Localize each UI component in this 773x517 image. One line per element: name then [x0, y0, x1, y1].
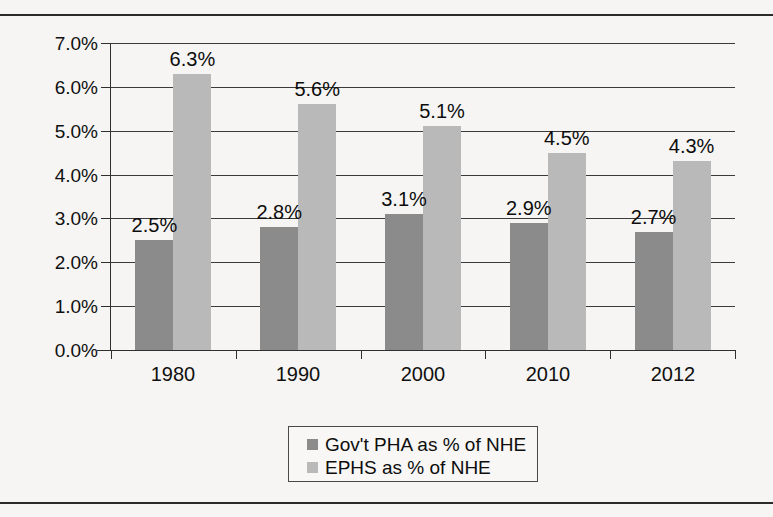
bar-series-1-2010 [548, 153, 586, 350]
x-axis-tick [485, 350, 486, 359]
x-axis-tick [236, 350, 237, 359]
y-axis-tick-label: 7.0% [12, 34, 98, 53]
data-label-series-1-1980: 6.3% [147, 49, 237, 69]
data-label-series-1-2010: 4.5% [522, 128, 612, 148]
y-axis-tick-label: 3.0% [12, 209, 98, 228]
bar-series-0-1980 [135, 240, 173, 350]
x-axis-tick [361, 350, 362, 359]
bar-series-1-1980 [173, 74, 211, 350]
y-axis-tick-label: 1.0% [12, 297, 98, 316]
bar-series-0-2000 [385, 214, 423, 350]
data-label-series-0-2012: 2.7% [609, 207, 699, 227]
data-label-series-0-1980: 2.5% [109, 215, 199, 235]
x-axis-tick-label-2000: 2000 [363, 363, 483, 386]
x-axis-tick [610, 350, 611, 359]
data-label-series-1-2012: 4.3% [647, 136, 737, 156]
data-label-series-0-2000: 3.1% [359, 189, 449, 209]
data-label-series-0-2010: 2.9% [484, 198, 574, 218]
bar-series-0-2012 [635, 232, 673, 350]
legend-item-1[interactable]: EPHS as % of NHE [307, 456, 537, 479]
data-label-series-1-1990: 5.6% [272, 79, 362, 99]
legend-item-0[interactable]: Gov't PHA as % of NHE [307, 433, 537, 456]
bar-series-1-2012 [673, 161, 711, 350]
legend-label-series-0: Gov't PHA as % of NHE [325, 435, 526, 454]
legend-swatch-icon-series-1 [307, 462, 318, 473]
x-axis-tick-label-2012: 2012 [613, 363, 733, 386]
y-axis-tick-label: 0.0% [12, 341, 98, 360]
bar-series-0-2010 [510, 223, 548, 350]
y-axis-tick-label: 5.0% [12, 122, 98, 141]
bar-series-1-2000 [423, 126, 461, 350]
legend-swatch-icon-series-0 [307, 439, 318, 450]
chart-legend: Gov't PHA as % of NHE EPHS as % of NHE [288, 426, 538, 482]
chart-figure: 0.0%1.0%2.0%3.0%4.0%5.0%6.0%7.0% 2.5%6.3… [0, 0, 773, 517]
x-axis-tick [111, 350, 112, 359]
x-axis-tick-label-1990: 1990 [238, 363, 358, 386]
legend-label-series-1: EPHS as % of NHE [325, 458, 491, 477]
y-axis-tick-label: 6.0% [12, 78, 98, 97]
y-axis-tick-label: 2.0% [12, 253, 98, 272]
page-rule-bottom [0, 502, 773, 504]
x-axis-tick [735, 350, 736, 359]
data-label-series-1-2000: 5.1% [397, 101, 487, 121]
y-axis-tick-label: 4.0% [12, 166, 98, 185]
bar-series-0-1990 [260, 227, 298, 350]
data-label-series-0-1990: 2.8% [234, 202, 324, 222]
x-axis-tick-label-1980: 1980 [113, 363, 233, 386]
bar-series-1-1990 [298, 104, 336, 350]
x-axis-tick-label-2010: 2010 [488, 363, 608, 386]
x-axis-line [97, 350, 735, 351]
y-axis-labels: 0.0%1.0%2.0%3.0%4.0%5.0%6.0%7.0% [0, 0, 98, 517]
page-rule-top [0, 14, 773, 16]
